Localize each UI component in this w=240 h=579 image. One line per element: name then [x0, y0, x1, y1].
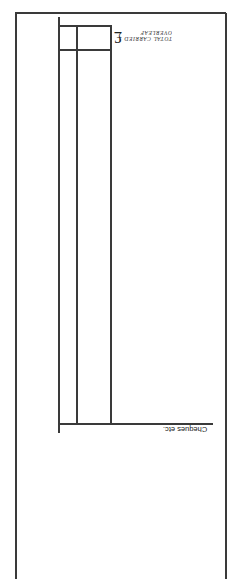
total-box-top — [58, 25, 111, 27]
column-rule-pence — [76, 25, 78, 423]
column-rule-right — [110, 25, 112, 423]
outer-border-left — [15, 12, 17, 579]
outer-border-top — [15, 12, 226, 14]
pound-symbol: £ — [114, 29, 123, 46]
cheques-column-label: Cheques etc. — [163, 425, 207, 434]
total-carried-label: TOTAL CARRIED — [128, 36, 172, 42]
total-carried-overleaf-label: TOTAL CARRIED OVERLEAF — [128, 30, 172, 42]
outer-border-right — [225, 13, 227, 579]
total-box-bottom — [58, 49, 111, 51]
column-rule-left — [58, 17, 60, 433]
